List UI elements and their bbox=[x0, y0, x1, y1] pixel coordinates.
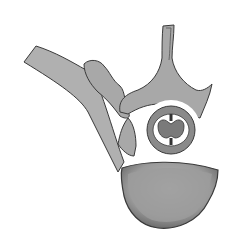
rib bbox=[24, 46, 124, 172]
pedicle bbox=[118, 118, 136, 156]
vertebra-rib-drawing bbox=[0, 0, 234, 251]
anatomy-illustration bbox=[0, 0, 234, 251]
